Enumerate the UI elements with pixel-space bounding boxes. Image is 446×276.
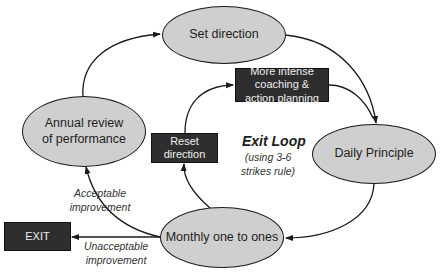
monthly-label: Monthly one to ones	[166, 230, 279, 246]
more-intense-coaching-box: More intense coaching & action planning	[235, 68, 329, 102]
acceptable-improvement-label: Acceptable improvement	[68, 187, 132, 214]
more-intense-label: More intense coaching & action planning	[240, 65, 324, 105]
annual-review-node: Annual review of performance	[22, 96, 146, 167]
reset-direction-box: Reset direction	[151, 133, 218, 163]
exit-loop-subtitle: (using 3-6 strikes rule)	[238, 151, 298, 178]
exit-loop-title: Exit Loop	[242, 133, 306, 149]
reset-direction-label: Reset direction	[162, 135, 207, 161]
daily-principle-label: Daily Principle	[334, 146, 413, 162]
daily-principle-node: Daily Principle	[312, 124, 436, 184]
set-direction-node: Set direction	[162, 6, 286, 64]
exit-label: EXIT	[25, 230, 49, 243]
exit-box: EXIT	[4, 222, 71, 251]
unacceptable-improvement-label: Unacceptable improvement	[80, 240, 152, 267]
set-direction-label: Set direction	[189, 27, 258, 43]
annual-review-label: Annual review of performance	[41, 116, 127, 147]
monthly-one-to-ones-node: Monthly one to ones	[160, 207, 284, 268]
